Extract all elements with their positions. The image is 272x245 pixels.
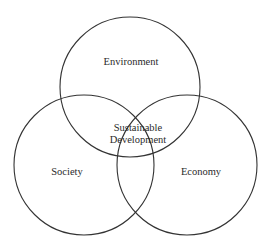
development-label: Development — [110, 134, 167, 145]
economy-circle — [117, 95, 257, 235]
society-label: Society — [51, 166, 83, 177]
economy-label: Economy — [181, 166, 222, 177]
sustainable-label: Sustainable — [114, 122, 163, 133]
venn-diagram: Environment Society Economy Sustainable … — [0, 0, 272, 245]
society-circle — [14, 95, 154, 235]
environment-label: Environment — [104, 56, 159, 67]
